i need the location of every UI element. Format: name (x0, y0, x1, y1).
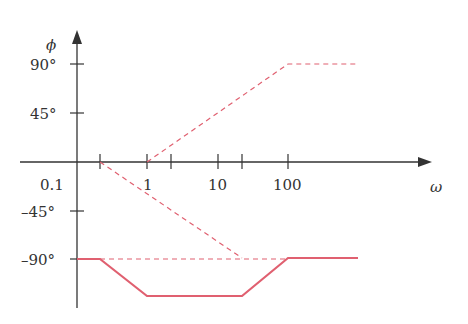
asymptote-rising (147, 64, 358, 162)
x-axis-arrow-icon (418, 157, 432, 167)
xtick-label-100: 100 (273, 176, 302, 194)
xtick-label-10: 10 (208, 176, 227, 194)
bode-phase-chart: ϕ 90° 45° –45° –90° 0.1 1 10 100 ω (0, 0, 468, 324)
ytick-label-45: 45° (30, 105, 57, 123)
ytick-label-m45: –45° (21, 203, 55, 221)
y-axis-arrow-icon (72, 30, 82, 44)
y-axis-label: ϕ (46, 36, 56, 54)
x-axis-label: ω (430, 178, 442, 196)
xtick-label-0.1: 0.1 (40, 176, 64, 194)
ytick-label-m90: –90° (21, 251, 55, 269)
xtick-label-1: 1 (143, 176, 153, 194)
total-phase-curve (77, 258, 358, 296)
ytick-label-90: 90° (30, 56, 57, 74)
